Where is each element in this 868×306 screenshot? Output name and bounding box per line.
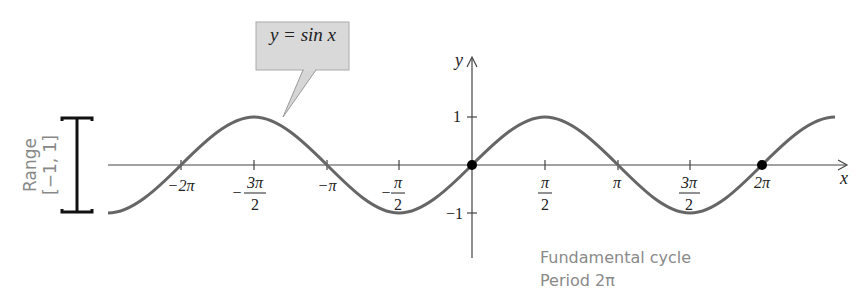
svg-text:−2π: −2π: [168, 177, 196, 194]
callout-formula: y = sin x: [270, 24, 336, 45]
svg-text:π: π: [394, 174, 403, 191]
y-tick-label-pos: 1: [453, 108, 461, 125]
y-axis: [467, 57, 477, 258]
x-tick-labels: −2π − 3π 2 −π − π 2 π 2 π 3π 2 2π: [168, 174, 771, 213]
svg-text:−: −: [381, 184, 390, 201]
x-axis-label: x: [839, 168, 848, 188]
range-label: Range [−1, 1]: [20, 135, 60, 195]
svg-text:2: 2: [394, 196, 402, 213]
y-tick-label-neg: −1: [446, 205, 463, 222]
origin-point: [467, 160, 477, 170]
note-line-2: Period 2π: [540, 269, 691, 292]
svg-text:−π: −π: [318, 177, 338, 194]
svg-text:3π: 3π: [246, 174, 264, 191]
svg-text:π: π: [613, 174, 622, 191]
svg-text:π: π: [541, 174, 550, 191]
fundamental-cycle-note: Fundamental cycle Period 2π: [540, 246, 691, 292]
callout-label: y = sin x: [258, 24, 348, 46]
svg-text:3π: 3π: [680, 174, 698, 191]
chart-canvas: −2π − 3π 2 −π − π 2 π 2 π 3π 2 2π: [0, 0, 868, 306]
svg-text:2: 2: [685, 196, 693, 213]
two-pi-point: [757, 160, 767, 170]
range-value: [−1, 1]: [40, 135, 60, 195]
range-title: Range: [20, 138, 40, 192]
note-line-1: Fundamental cycle: [540, 246, 691, 269]
svg-text:−: −: [232, 184, 241, 201]
sine-graph-figure: −2π − 3π 2 −π − π 2 π 2 π 3π 2 2π: [0, 0, 868, 306]
svg-text:2π: 2π: [754, 174, 771, 191]
range-bracket: [62, 118, 92, 212]
svg-text:2: 2: [251, 196, 259, 213]
y-axis-label: y: [453, 50, 463, 70]
svg-text:2: 2: [541, 196, 549, 213]
